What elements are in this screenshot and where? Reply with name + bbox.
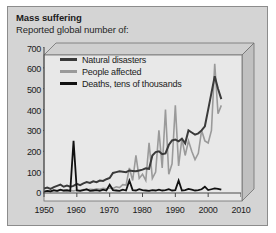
x-tick-1960: 1960 [61, 206, 91, 215]
x-tick-2010: 2010 [226, 206, 256, 215]
y-tick-300: 300 [15, 127, 41, 136]
data-series-group [44, 64, 221, 192]
series-line-natural-disasters [44, 76, 221, 189]
x-tick-1970: 1970 [94, 206, 124, 215]
x-tick-2000: 2000 [193, 206, 223, 215]
y-tick-100: 100 [15, 169, 41, 178]
box-right-face [242, 43, 254, 201]
chart-series-canvas [43, 47, 241, 202]
y-tick-0: 0 [15, 189, 41, 198]
y-tick-400: 400 [15, 107, 41, 116]
x-tick-1980: 1980 [127, 206, 157, 215]
chart-title: Mass suffering [16, 12, 82, 23]
y-tick-500: 500 [15, 86, 41, 95]
y-axis-tick-labels: 700 600 500 400 300 200 100 0 [10, 41, 41, 211]
x-tick-1950: 1950 [29, 206, 59, 215]
chart-subtitle: Reported global number of: [16, 24, 129, 35]
y-tick-600: 600 [15, 65, 41, 74]
series-line-deaths-tens-of-thousands [44, 141, 221, 192]
y-tick-700: 700 [15, 45, 41, 54]
x-tick-1990: 1990 [160, 206, 190, 215]
chart-plot-area [43, 47, 241, 202]
x-axis-tick-labels: 1950 1960 1970 1980 1990 2000 2010 [8, 206, 269, 220]
y-tick-200: 200 [15, 148, 41, 157]
chart-figure: Mass suffering Reported global number of… [7, 6, 268, 226]
